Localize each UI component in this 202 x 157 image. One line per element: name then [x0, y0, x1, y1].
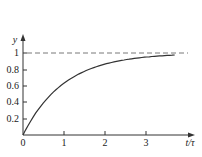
x-tick-label: 1	[62, 137, 67, 148]
y-ticks	[23, 53, 27, 119]
y-tick-label: 0.4	[7, 96, 20, 107]
response-curve	[23, 55, 175, 135]
y-tick-label: 0.6	[7, 80, 20, 91]
x-tick-label: 3	[144, 137, 149, 148]
y-tick-label: 1	[14, 47, 19, 58]
y-axis-label: y	[12, 34, 18, 45]
y-tick-label: 0.8	[7, 64, 20, 75]
chart: 0 1 2 3 0.2 0.4 0.6 0.8 1 y t/τ	[0, 0, 202, 157]
y-tick-label: 0.2	[7, 113, 20, 124]
x-ticks	[64, 131, 146, 135]
y-axis-arrow-icon	[21, 34, 26, 41]
x-tick-label: 0	[21, 137, 26, 148]
x-axis-label: t/τ	[185, 137, 195, 148]
x-tick-label: 2	[103, 137, 108, 148]
